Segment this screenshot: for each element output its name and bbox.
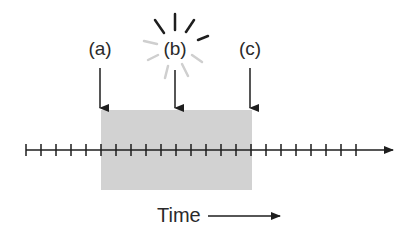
event-label-a: (a) — [88, 38, 111, 59]
event-label-c: (c) — [239, 38, 261, 59]
event-label-b: (b) — [163, 38, 186, 59]
axis-label-time: Time — [157, 204, 201, 226]
timeline-diagram: (a) (b) (c) Time — [0, 0, 408, 235]
